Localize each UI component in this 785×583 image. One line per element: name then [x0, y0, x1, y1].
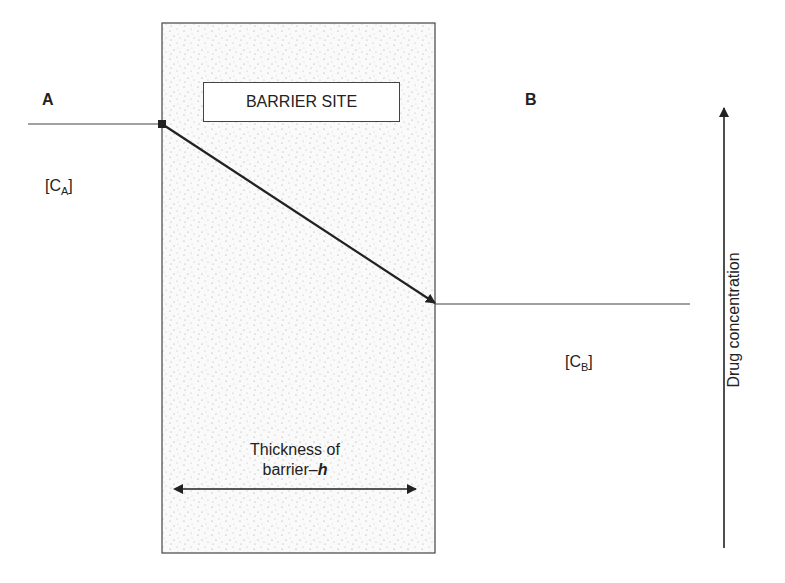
barrier-site-label: BARRIER SITE [246, 93, 357, 111]
compartment-b-label: B [525, 92, 537, 108]
concentration-a-label: [CA] [45, 178, 73, 197]
thickness-label: Thickness of barrier–h [190, 440, 400, 480]
drug-concentration-axis-label: Drug concentration [725, 252, 743, 387]
diffusion-barrier-diagram: A B BARRIER SITE [CA] [CB] Thickness of … [0, 0, 785, 583]
concentration-b-label: [CB] [565, 354, 593, 373]
barrier-site-box: BARRIER SITE [203, 82, 400, 122]
compartment-a-label: A [42, 92, 54, 108]
